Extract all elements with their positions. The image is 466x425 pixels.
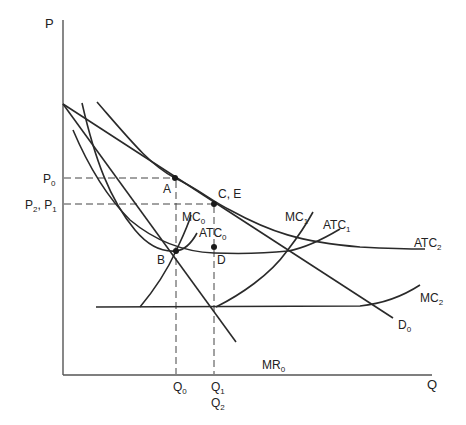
tick-q2: Q2	[211, 396, 225, 412]
label-a: A	[163, 182, 171, 196]
point-a	[172, 175, 178, 181]
atc0-curve	[82, 103, 197, 251]
label-d0: D0	[398, 318, 412, 334]
x-axis-label: Q	[427, 377, 437, 392]
point-ce	[211, 201, 217, 207]
label-atc2: ATC2	[414, 236, 442, 252]
mc0-curve	[140, 215, 191, 307]
price-tick-labels: P0 P2, P1	[25, 172, 57, 214]
atc2-curve	[97, 102, 425, 249]
demand-curve-d0	[63, 104, 393, 318]
label-ce: C, E	[218, 187, 241, 201]
point-b	[173, 248, 179, 254]
curve-labels: MC0 ATC0 MC1 ATC1 ATC2 MC2 D0 MR0	[182, 210, 444, 374]
tick-p0: P0	[43, 172, 56, 188]
economics-diagram: P Q A B C, E D	[0, 0, 466, 425]
label-atc1: ATC1	[323, 218, 351, 234]
label-mc1: MC1	[285, 210, 309, 226]
label-d: D	[217, 253, 226, 267]
point-d	[211, 244, 217, 250]
label-b: B	[157, 253, 165, 267]
quantity-tick-labels: Q0 Q1 Q2	[173, 380, 225, 412]
tick-q0: Q0	[173, 380, 187, 396]
label-atc0: ATC0	[199, 226, 227, 242]
curves	[63, 102, 425, 342]
y-axis-label: P	[45, 16, 54, 31]
point-labels: A B C, E D	[157, 182, 241, 267]
label-mc2: MC2	[420, 291, 444, 307]
mc2-curve	[96, 285, 420, 307]
tick-p2-p1: P2, P1	[25, 198, 57, 214]
tick-q1: Q1	[211, 380, 225, 396]
label-mr0: MR0	[262, 358, 286, 374]
label-mc0: MC0	[182, 210, 206, 226]
